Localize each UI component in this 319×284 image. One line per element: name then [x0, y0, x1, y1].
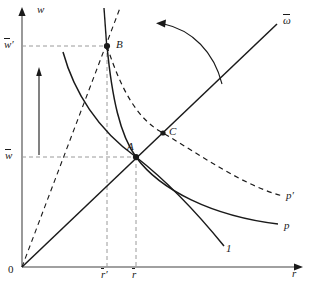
omega-bar-letter: ω — [283, 15, 291, 26]
origin-label: 0 — [8, 264, 14, 275]
wage-profit-frontier-figure: w r 0 w′ w r′ r B A C ω p′ p 1 — [0, 0, 319, 284]
curve-p-label: p — [284, 220, 290, 231]
curve-p-prime-mark: ′ — [292, 189, 294, 201]
tick-w-bar-prime-mark: ′ — [11, 38, 13, 50]
point-b-label: B — [116, 39, 123, 50]
curve-p — [107, 46, 278, 224]
point-c-marker — [160, 130, 165, 135]
x-axis-label: r — [292, 268, 296, 279]
omega-bar-label: ω — [283, 15, 291, 26]
tick-r-bar: r — [132, 269, 136, 280]
diagram-canvas — [0, 0, 319, 284]
tick-r-bar-prime-letter: r — [101, 269, 105, 280]
curve-shift-arrow-shaft — [164, 24, 222, 84]
rays-group — [22, 8, 277, 267]
point-a-marker — [133, 154, 139, 160]
curve-shift-arrow-head — [156, 20, 166, 28]
curve-one-label: 1 — [226, 243, 232, 254]
tick-r-bar-prime: r′ — [101, 269, 108, 280]
curve-one — [63, 52, 224, 246]
tick-r-bar-letter: r — [132, 269, 136, 280]
curves-group — [63, 46, 283, 246]
wage-shift-arrow-head — [36, 67, 42, 76]
tick-w-bar-prime-letter: w — [4, 39, 11, 50]
tick-w-bar: w — [5, 150, 12, 161]
point-b-marker — [104, 43, 110, 49]
tick-w-bar-letter: w — [5, 150, 12, 161]
points-group — [104, 43, 166, 160]
point-c-label: C — [169, 126, 176, 137]
omega-bar-ray — [22, 24, 277, 267]
curve-p-prime — [107, 46, 283, 196]
axes-group — [18, 7, 303, 271]
tick-w-bar-prime: w′ — [4, 39, 14, 50]
point-a-label: A — [127, 141, 134, 152]
y-axis-label: w — [37, 4, 44, 15]
curve-p-prime-label: p′ — [286, 190, 294, 201]
shift-arrows-group — [36, 20, 222, 155]
tick-r-bar-prime-mark: ′ — [105, 268, 107, 280]
y-axis-arrowhead — [18, 7, 25, 16]
